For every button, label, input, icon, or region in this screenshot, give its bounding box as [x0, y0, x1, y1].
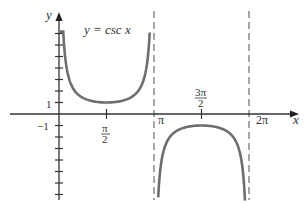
x-tick-label-2pi: 2π	[256, 113, 268, 127]
y-axis-label: y	[44, 7, 52, 22]
x-axis-label: x	[292, 112, 299, 127]
csc-graph: y x y = csc x 1 −1 π 2 π 3π 2 2π	[0, 0, 306, 203]
y-axis-arrow-icon	[56, 12, 63, 21]
function-label: y = csc x	[82, 22, 131, 37]
csc-branch-negative	[158, 126, 245, 201]
x-tick-label-3pi-half-den: 2	[198, 97, 204, 109]
x-tick-label-pi-half-den: 2	[102, 133, 108, 145]
y-tick-label-neg1: −1	[37, 120, 49, 132]
csc-branch-positive	[60, 32, 150, 103]
y-tick-label-1: 1	[46, 98, 52, 110]
x-tick-label-pi: π	[158, 113, 164, 127]
